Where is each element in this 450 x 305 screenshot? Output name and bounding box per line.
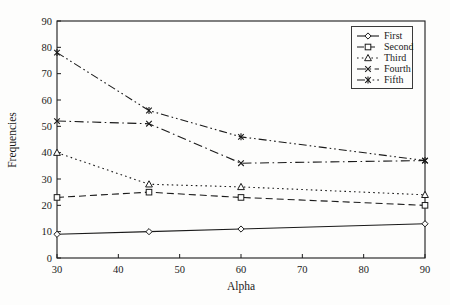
legend-line-sample-fifth <box>356 75 380 85</box>
y-tick-label: 90 <box>42 16 53 27</box>
y-tick-label: 30 <box>42 174 53 185</box>
legend-label-second: Second <box>384 42 413 52</box>
legend-item-fourth: Fourth <box>356 64 409 75</box>
line-chart-figure: Frequencies Alpha 3040506070809001020304… <box>0 0 450 305</box>
x-tick-label: 80 <box>358 264 369 275</box>
x-tick-label: 50 <box>174 264 185 275</box>
x-tick-label: 90 <box>420 264 431 275</box>
legend-line-sample-first <box>356 31 380 41</box>
legend-line-sample-second <box>356 42 380 52</box>
legend-label-fourth: Fourth <box>384 64 411 74</box>
y-tick-label: 60 <box>42 95 53 106</box>
x-tick-label: 70 <box>297 264 308 275</box>
y-axis-label: Frequencies <box>6 112 19 168</box>
x-tick-label: 60 <box>236 264 247 275</box>
y-tick-label: 70 <box>42 68 53 79</box>
legend-line-sample-third <box>356 53 380 63</box>
legend-label-fifth: Fifth <box>384 75 403 85</box>
x-tick-label: 40 <box>113 264 124 275</box>
y-tick-label: 20 <box>42 200 53 211</box>
x-axis-label: Alpha <box>227 280 255 293</box>
legend-item-second: Second <box>356 41 409 52</box>
legend-label-first: First <box>384 31 402 41</box>
y-tick-label: 80 <box>42 42 53 53</box>
x-tick-label: 30 <box>52 264 63 275</box>
legend-item-first: First <box>356 30 409 41</box>
y-tick-label: 10 <box>42 226 53 237</box>
y-tick-label: 40 <box>42 147 53 158</box>
legend-line-sample-fourth <box>356 64 380 74</box>
legend-item-fifth: Fifth <box>356 75 409 86</box>
y-tick-label: 50 <box>42 121 53 132</box>
legend-item-third: Third <box>356 52 409 63</box>
legend: First Second Third Fourth Fifth <box>351 26 413 89</box>
series-line-fourth <box>57 121 425 163</box>
legend-label-third: Third <box>384 53 406 63</box>
y-tick-label: 0 <box>47 253 52 264</box>
